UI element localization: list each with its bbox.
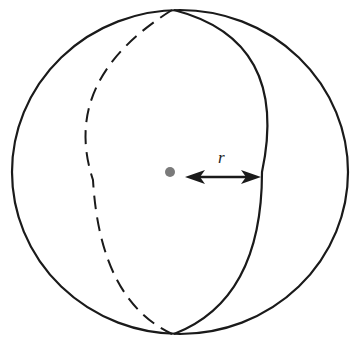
back-meridian-dashed [85,10,172,334]
sphere-diagram: r [0,0,355,345]
radius-label: r [218,148,225,168]
outer-circle [12,10,348,334]
sphere-drawing [0,0,355,345]
front-meridian-solid [174,10,267,334]
radius-arrow [185,170,261,184]
center-point [165,167,175,177]
